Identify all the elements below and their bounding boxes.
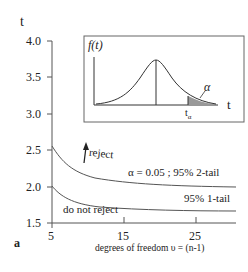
not-reject-label: do not reject [63,203,118,215]
inset-alpha-label: α [204,80,210,95]
inset-x-label: t [227,97,231,113]
y-tick-2-0: 2.0 [26,180,41,195]
y-ticks [47,41,52,223]
y-axis-label: t [20,14,24,30]
x-tick-25: 25 [189,229,201,244]
inset-y-label: f(t) [88,38,103,53]
reject-label: reject [88,146,114,160]
inset-crit-sub: α [188,113,192,121]
inset-frame [84,36,244,122]
x-tick-15: 15 [117,229,129,244]
y-tick-2-5: 2.5 [26,143,41,158]
one-tail-label: 95% 1-tail [184,192,230,204]
y-tick-3-0: 3.0 [26,107,41,122]
y-tick-4-0: 4.0 [26,34,41,49]
arrow-head-icon [83,142,89,150]
x-tick-5: 5 [48,229,54,244]
two-tail-label: α = 0.05 ; 95% 2-tail [128,166,219,178]
y-tick-1-5: 1.5 [26,216,41,231]
x-axis-label: degrees of freedom υ = (n-1) [95,243,205,253]
panel-label: a [14,236,20,251]
y-tick-3-5: 3.5 [26,70,41,85]
inset-critical-label: tα [185,107,191,121]
